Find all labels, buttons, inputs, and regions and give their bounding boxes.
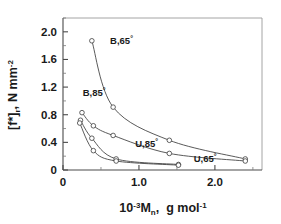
data-point-marker	[243, 159, 248, 164]
x-tick-label: 2.0	[207, 176, 223, 188]
data-point-marker	[176, 163, 181, 168]
data-point-marker	[114, 159, 119, 164]
x-tick-label: 0	[60, 176, 66, 188]
series-label-b65: B,65°	[110, 35, 133, 46]
series-label-b85: B,85°	[83, 87, 106, 98]
y-tick-label: 1.6	[41, 53, 57, 65]
data-point-marker	[91, 123, 96, 128]
data-point-marker	[90, 39, 95, 44]
x-tick-label: 1.0	[131, 176, 147, 188]
data-point-marker	[167, 151, 172, 156]
data-point-marker	[80, 110, 85, 115]
y-tick-label: 1.2	[41, 81, 57, 93]
data-point-marker	[167, 138, 172, 143]
data-point-marker	[90, 136, 95, 141]
y-axis-title: [f*]r,N mm-2	[6, 60, 22, 130]
data-point-marker	[111, 105, 116, 110]
data-point-marker	[77, 121, 82, 126]
series-label-u65: U,65°	[194, 153, 217, 164]
y-tick-label: 0	[51, 164, 57, 176]
data-point-marker	[111, 133, 116, 138]
series-label-u85: U,85°	[135, 138, 158, 149]
data-point-marker	[91, 148, 96, 153]
scientific-line-chart: 01.02.000.40.81.21.62.0 B,65°B,85°U,85°U…	[0, 0, 281, 224]
y-tick-label: 2.0	[41, 26, 57, 38]
y-tick-label: 0.8	[41, 109, 58, 121]
y-tick-label: 0.4	[41, 136, 58, 148]
